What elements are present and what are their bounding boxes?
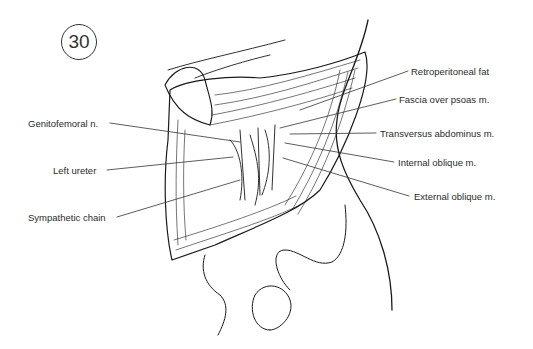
leader-retroperitoneal-fat xyxy=(300,71,408,110)
leader-transversus xyxy=(290,133,376,134)
label-fascia-over-psoas: Fascia over psoas m. xyxy=(399,94,489,105)
deep-structures xyxy=(230,125,275,205)
leader-external-oblique xyxy=(283,158,409,196)
leader-genitofemoral xyxy=(110,123,240,142)
iliac-crest xyxy=(276,205,346,290)
pelvis-outline xyxy=(203,255,226,335)
incision-outline xyxy=(165,52,367,260)
pelvis-inner-curve xyxy=(252,286,291,330)
leader-internal-oblique xyxy=(285,143,394,162)
leader-sympathetic-chain xyxy=(117,180,240,217)
retractor xyxy=(165,67,212,125)
label-left-ureter: Left ureter xyxy=(53,165,96,176)
body-contour-right xyxy=(336,20,392,310)
body-contour-upper xyxy=(168,40,285,78)
leader-fascia-over-psoas xyxy=(280,99,396,128)
leader-left-ureter xyxy=(107,157,233,170)
label-external-oblique: External oblique m. xyxy=(414,191,495,202)
label-transversus-abdominus: Transversus abdominus m. xyxy=(380,128,494,139)
leader-lines xyxy=(107,71,409,217)
label-genitofemoral-nerve: Genitofemoral n. xyxy=(28,118,98,129)
label-retroperitoneal-fat: Retroperitoneal fat xyxy=(411,66,489,77)
label-internal-oblique: Internal oblique m. xyxy=(398,157,476,168)
label-sympathetic-chain: Sympathetic chain xyxy=(28,212,106,223)
